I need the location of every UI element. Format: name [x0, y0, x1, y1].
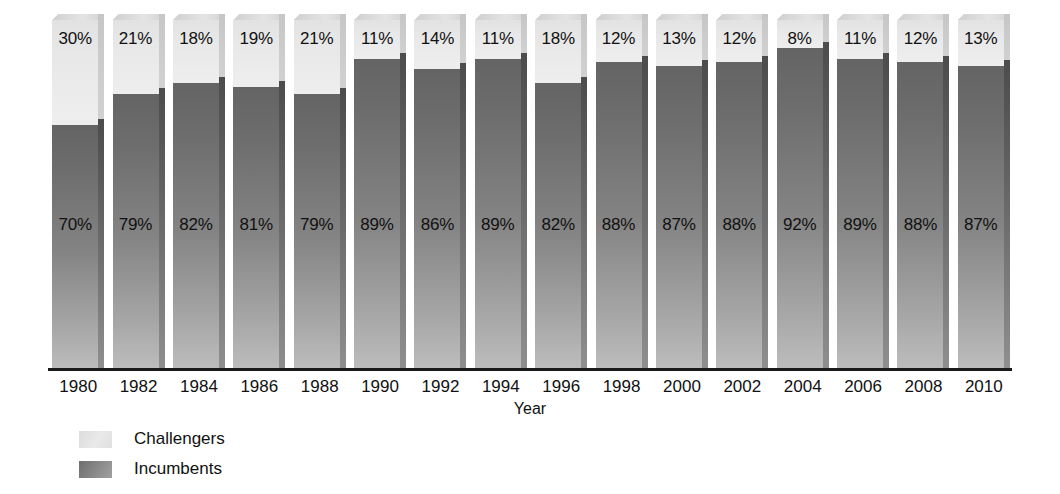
bar-value-label-incumbents: 92%	[777, 216, 823, 233]
x-axis-tick-label: 2006	[833, 374, 893, 400]
bar-value-label-incumbents: 79%	[113, 216, 159, 233]
x-axis-tick-label: 1996	[531, 374, 591, 400]
bar-value-label-incumbents: 88%	[596, 216, 642, 233]
bar-value-label-challengers: 12%	[897, 30, 943, 47]
bar-segment-challengers-side	[642, 14, 648, 62]
bar-segment-incumbents-side	[943, 56, 949, 370]
legend-swatch-challengers-icon	[79, 431, 112, 448]
bar-segment-incumbents-side	[219, 77, 225, 370]
bar-value-label-challengers: 21%	[113, 30, 159, 47]
legend-item-incumbents: Incumbents	[79, 454, 225, 484]
bar-value-label-challengers: 13%	[656, 30, 702, 47]
bar-value-label-challengers: 18%	[535, 30, 581, 47]
bar-value-label-incumbents: 87%	[958, 216, 1004, 233]
bar-column: 21%79%	[294, 20, 346, 370]
bar-column: 21%79%	[113, 20, 165, 370]
bar-column: 11%89%	[837, 20, 889, 370]
bar-value-label-challengers: 14%	[414, 30, 460, 47]
legend-label-incumbents: Incumbents	[134, 459, 222, 479]
chart-legend: Challengers Incumbents	[79, 424, 225, 484]
x-axis-tick-label: 2008	[893, 374, 953, 400]
bar-segment-incumbents-side	[1004, 60, 1010, 371]
x-axis-tick-label: 2000	[652, 374, 712, 400]
bar-column: 8%92%	[777, 20, 829, 370]
x-axis-tick-label: 1984	[169, 374, 229, 400]
bar-value-label-incumbents: 86%	[414, 216, 460, 233]
x-axis-tick-label: 1988	[290, 374, 350, 400]
bar-segment-incumbents-side	[98, 119, 104, 370]
bar-value-label-incumbents: 89%	[475, 216, 521, 233]
legend-label-challengers: Challengers	[134, 429, 225, 449]
bar-value-label-challengers: 11%	[354, 30, 400, 47]
bar-value-label-challengers: 11%	[837, 30, 883, 47]
bar-column: 18%82%	[173, 20, 225, 370]
bar-value-label-challengers: 8%	[777, 30, 823, 47]
bar-value-label-challengers: 21%	[294, 30, 340, 47]
bar-value-label-challengers: 12%	[596, 30, 642, 47]
bar-column: 12%88%	[716, 20, 768, 370]
bar-segment-incumbents	[52, 125, 98, 370]
bar-segment-incumbents-side	[279, 81, 285, 371]
x-axis-tick-label: 1986	[229, 374, 289, 400]
bar-segment-incumbents-side	[460, 63, 466, 370]
x-axis-line	[48, 368, 1012, 371]
bar-value-label-incumbents: 82%	[173, 216, 219, 233]
x-axis-tick-label: 1990	[350, 374, 410, 400]
legend-swatch-incumbents-icon	[79, 461, 112, 478]
bar-value-label-incumbents: 70%	[52, 216, 98, 233]
bar-column: 11%89%	[354, 20, 406, 370]
x-axis-title: Year	[0, 400, 1060, 418]
bar-segment-incumbents-side	[823, 42, 829, 370]
bar-segment-incumbents-side	[581, 77, 587, 370]
bar-segment-incumbents-side	[521, 53, 527, 371]
bar-segment-challengers-side	[159, 14, 165, 94]
bar-value-label-challengers: 11%	[475, 30, 521, 47]
x-axis-tick-labels: 1980198219841986198819901992199419961998…	[48, 374, 1014, 400]
plot-area: 30%70%21%79%18%82%19%81%21%79%11%89%14%8…	[48, 14, 1014, 370]
bar-segment-incumbents-side	[642, 56, 648, 370]
bar-segment-incumbents-side	[883, 53, 889, 371]
bar-segment-incumbents-side	[762, 56, 768, 370]
bar-value-label-challengers: 13%	[958, 30, 1004, 47]
bar-column: 18%82%	[535, 20, 587, 370]
bar-value-label-incumbents: 89%	[354, 216, 400, 233]
bar-segment-challengers-side	[219, 14, 225, 83]
x-axis-tick-label: 2004	[773, 374, 833, 400]
x-axis-tick-label: 1982	[108, 374, 168, 400]
bar-column: 19%81%	[233, 20, 285, 370]
bar-column: 13%87%	[958, 20, 1010, 370]
bar-segment-challengers-side	[581, 14, 587, 83]
bar-column: 12%88%	[897, 20, 949, 370]
legend-item-challengers: Challengers	[79, 424, 225, 454]
bar-value-label-challengers: 30%	[52, 30, 98, 47]
bar-segment-challengers-side	[340, 14, 346, 94]
bar-column: 12%88%	[596, 20, 648, 370]
bar-segment-incumbents-side	[159, 88, 165, 371]
bar-value-label-incumbents: 81%	[233, 216, 279, 233]
x-axis-tick-label: 1994	[471, 374, 531, 400]
bar-column: 13%87%	[656, 20, 708, 370]
bar-segment-challengers-side	[1004, 14, 1010, 66]
bar-column: 30%70%	[52, 20, 104, 370]
bar-value-label-incumbents: 79%	[294, 216, 340, 233]
bar-value-label-incumbents: 88%	[897, 216, 943, 233]
bar-segment-incumbents-side	[400, 53, 406, 371]
bar-value-label-challengers: 19%	[233, 30, 279, 47]
bar-segment-incumbents-side	[340, 88, 346, 371]
bar-value-label-challengers: 12%	[716, 30, 762, 47]
bar-segment-challengers-side	[460, 14, 466, 69]
bar-segment-challengers-side	[702, 14, 708, 66]
x-axis-tick-label: 2002	[712, 374, 772, 400]
bar-value-label-incumbents: 82%	[535, 216, 581, 233]
bar-segment-challengers-side	[943, 14, 949, 62]
bar-value-label-challengers: 18%	[173, 30, 219, 47]
bar-value-label-incumbents: 87%	[656, 216, 702, 233]
bar-column: 14%86%	[414, 20, 466, 370]
bar-value-label-incumbents: 88%	[716, 216, 762, 233]
x-axis-tick-label: 1998	[591, 374, 651, 400]
bar-segment-challengers-side	[762, 14, 768, 62]
bar-segment-challengers-side	[98, 14, 104, 125]
bar-column: 11%89%	[475, 20, 527, 370]
bar-segment-challengers-side	[279, 14, 285, 87]
bar-segment-incumbents	[777, 48, 823, 370]
